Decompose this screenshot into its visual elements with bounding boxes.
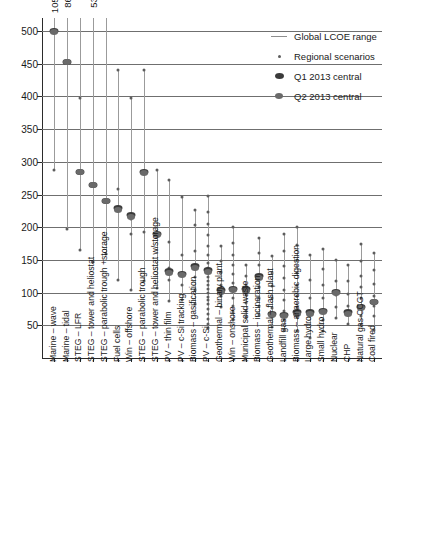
- regional-scenario-point: [117, 279, 120, 282]
- q2-central-point: [204, 269, 212, 275]
- y-axis-tick: [37, 162, 42, 163]
- regional-scenario-point: [321, 248, 324, 251]
- regional-scenario-point: [53, 169, 56, 172]
- regional-scenario-point: [206, 312, 209, 315]
- lcoe-range-stem: [67, 18, 68, 229]
- regional-scenario-point: [130, 289, 133, 292]
- legend-swatch-small-dot-icon: [278, 55, 281, 58]
- y-axis-tick-label: 200: [21, 222, 38, 233]
- regional-scenario-point: [321, 268, 324, 271]
- q2-central-point: [63, 59, 71, 65]
- regional-scenario-point: [232, 241, 235, 244]
- regional-scenario-point: [334, 317, 337, 320]
- y-axis-tick: [37, 96, 42, 97]
- regional-scenario-point: [232, 225, 235, 228]
- regional-scenario-point: [206, 295, 209, 298]
- q2-central-point: [178, 272, 186, 278]
- regional-scenario-point: [130, 96, 133, 99]
- y-axis-tick: [37, 31, 42, 32]
- regional-scenario-point: [270, 255, 273, 258]
- regional-scenario-point: [283, 289, 286, 292]
- regional-scenario-point: [193, 250, 196, 253]
- x-axis-category-label: PV – c-Si: [203, 326, 212, 362]
- legend-label: Regional scenarios: [294, 51, 375, 62]
- x-axis-category-label: Landfill gas: [279, 319, 288, 362]
- y-axis-tick-label: 500: [21, 26, 38, 37]
- regional-scenario-point: [206, 303, 209, 306]
- regional-scenario-point: [257, 236, 260, 239]
- regional-scenario-point: [347, 263, 350, 266]
- x-axis-category-label: STEG – tower and heliostat w/storage: [151, 217, 160, 362]
- regional-scenario-point: [283, 250, 286, 253]
- y-axis-tick: [37, 227, 42, 228]
- y-axis-labels: 50100150200250300350400450500: [0, 18, 38, 358]
- regional-scenario-point: [206, 211, 209, 214]
- x-axis-category-label: Small hydro: [318, 317, 327, 362]
- regional-scenario-point: [372, 283, 375, 286]
- y-axis-tick-label: 300: [21, 156, 38, 167]
- regional-scenario-point: [296, 226, 299, 229]
- legend-marker: [268, 36, 290, 37]
- y-axis-tick-label: 450: [21, 58, 38, 69]
- legend-marker: [268, 55, 290, 58]
- regional-scenario-point: [309, 253, 312, 256]
- legend-marker: [268, 73, 290, 79]
- legend-swatch-large-grey-dot-icon: [275, 93, 283, 99]
- regional-scenario-point: [168, 178, 171, 181]
- regional-scenario-point: [142, 68, 145, 71]
- x-axis-category-label: Coal fired: [369, 325, 378, 362]
- regional-scenario-point: [232, 273, 235, 276]
- regional-scenario-point: [206, 317, 209, 320]
- regional-scenario-point: [66, 228, 69, 231]
- regional-scenario-point: [334, 279, 337, 282]
- x-axis-category-label: Biomass – anaerobic digestion: [292, 245, 301, 362]
- regional-scenario-point: [347, 304, 350, 307]
- q2-central-point: [370, 299, 378, 305]
- x-axis-category-label: Geothermal – binary plant: [215, 263, 224, 362]
- value-annotation: 861: [62, 0, 73, 8]
- q2-central-point: [102, 198, 110, 204]
- regional-scenario-point: [206, 275, 209, 278]
- legend-marker: [268, 93, 290, 99]
- y-axis-tick: [37, 129, 42, 130]
- regional-scenario-point: [219, 244, 222, 247]
- regional-scenario-point: [232, 296, 235, 299]
- regional-scenario-point: [168, 279, 171, 282]
- regional-scenario-point: [155, 168, 158, 171]
- x-axis-category-label: Marine – tidal: [62, 310, 71, 362]
- y-axis-tick: [37, 325, 42, 326]
- regional-scenario-point: [117, 188, 120, 191]
- q2-central-point: [191, 265, 199, 271]
- regional-scenario-point: [347, 292, 350, 295]
- x-axis-category-label: Marine – wave: [49, 306, 58, 362]
- legend-item-q1-2013-central: Q1 2013 central: [268, 68, 423, 84]
- regional-scenario-point: [206, 279, 209, 282]
- regional-scenario-point: [360, 260, 363, 263]
- regional-scenario-point: [257, 264, 260, 267]
- regional-scenario-point: [142, 231, 145, 234]
- regional-scenario-point: [219, 259, 222, 262]
- regional-scenario-point: [206, 253, 209, 256]
- q2-central-point: [127, 214, 135, 220]
- y-axis-tick: [37, 293, 42, 294]
- legend-item-q2-2013-central: Q2 2013 central: [268, 88, 423, 104]
- regional-scenario-point: [372, 315, 375, 318]
- regional-scenario-point: [283, 299, 286, 302]
- lcoe-range-stem: [54, 18, 55, 170]
- regional-scenario-point: [232, 253, 235, 256]
- legend-item-regional-scenarios: Regional scenarios: [268, 48, 423, 64]
- y-axis-tick: [37, 195, 42, 196]
- regional-scenario-point: [78, 97, 81, 100]
- q2-central-point: [140, 170, 148, 176]
- regional-scenario-point: [206, 194, 209, 197]
- regional-scenario-point: [206, 244, 209, 247]
- regional-scenario-point: [193, 224, 196, 227]
- x-axis-category-label: Large hydro: [305, 316, 314, 362]
- regional-scenario-point: [130, 232, 133, 235]
- lcoe-range-stem: [374, 253, 375, 330]
- value-annotation: 1059: [49, 0, 60, 13]
- regional-scenario-point: [347, 279, 350, 282]
- y-axis-tick-label: 150: [21, 254, 38, 265]
- regional-scenario-point: [309, 278, 312, 281]
- legend-swatch-line-icon: [271, 36, 287, 37]
